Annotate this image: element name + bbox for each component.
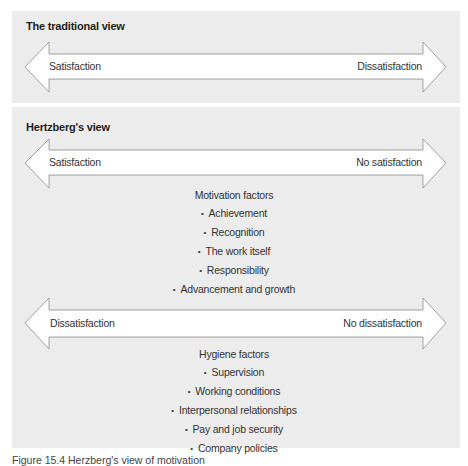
motivation-factors-list: Motivation factors •Achievement •Recogni… [0,186,468,299]
figure-caption: Figure 15.4 Herzberg's view of motivatio… [12,454,205,466]
hygiene-factors-heading: Hygiene factors [0,345,468,363]
motivation-factors-heading: Motivation factors [0,186,468,204]
traditional-view-title: The traditional view [26,20,125,32]
bullet-icon: • [204,363,207,382]
list-item: •Recognition [0,223,468,242]
list-item: •Supervision [0,363,468,382]
arrow-left-label: Satisfaction [49,156,101,168]
arrow-right-label: No satisfaction [356,156,422,168]
arrow-right-label: Dissatisfaction [357,60,422,72]
list-item: •Working conditions [0,382,468,401]
arrow-left-label: Satisfaction [49,60,101,72]
arrow-left-label: Dissatisfaction [50,317,115,329]
bullet-icon: • [171,401,174,420]
list-item: •Interpersonal relationships [0,401,468,420]
bullet-icon: • [188,382,191,401]
bullet-icon: • [199,261,202,280]
traditional-double-arrow: Satisfaction Dissatisfaction [0,41,468,97]
list-item: •Achievement [0,204,468,223]
bullet-icon: • [201,204,204,223]
arrow-right-label: No dissatisfaction [343,317,422,329]
bullet-icon: • [198,242,201,261]
bullet-icon: • [204,223,207,242]
list-item: •Responsibility [0,261,468,280]
list-item: •The work itself [0,242,468,261]
hygiene-factors-list: Hygiene factors •Supervision •Working co… [0,345,468,458]
list-item: •Pay and job security [0,420,468,439]
herzberg-view-title: Hertzberg's view [26,121,110,133]
bullet-icon: • [185,420,188,439]
